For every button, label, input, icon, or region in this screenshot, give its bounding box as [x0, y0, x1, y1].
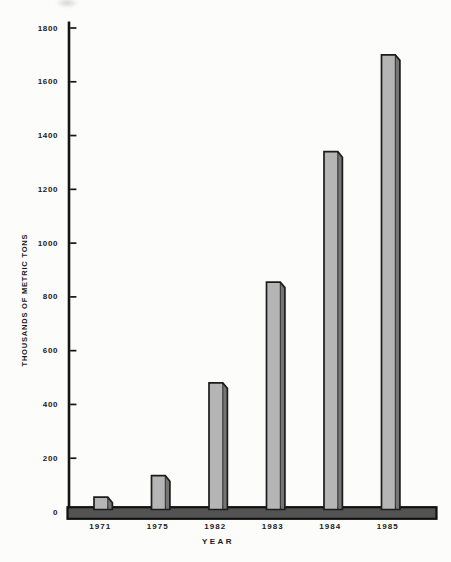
- bar-face: [94, 497, 108, 509]
- bar-face: [382, 55, 396, 510]
- x-tick-label-1971: 1971: [78, 522, 122, 531]
- bar-1975: [152, 476, 170, 510]
- x-tick-label-1985: 1985: [366, 522, 410, 531]
- x-tick-label-1982: 1982: [193, 522, 237, 531]
- bar-face: [267, 282, 281, 509]
- bar-face: [324, 152, 338, 510]
- bar-chart-figure: THOUSANDS OF METRIC TONS 0 200 400 600 8…: [0, 0, 451, 562]
- chart-canvas: [0, 0, 451, 562]
- x-axis-title: YEAR: [176, 537, 260, 546]
- bar-1983: [267, 282, 285, 509]
- x-tick-label-1984: 1984: [308, 522, 352, 531]
- bar-face: [209, 383, 223, 510]
- bar-1984: [324, 152, 342, 510]
- bar-face: [152, 476, 166, 510]
- x-tick-label-1983: 1983: [251, 522, 295, 531]
- bar-1971: [94, 497, 112, 509]
- bar-1985: [382, 55, 400, 510]
- x-tick-label-1975: 1975: [136, 522, 180, 531]
- bar-1982: [209, 383, 227, 510]
